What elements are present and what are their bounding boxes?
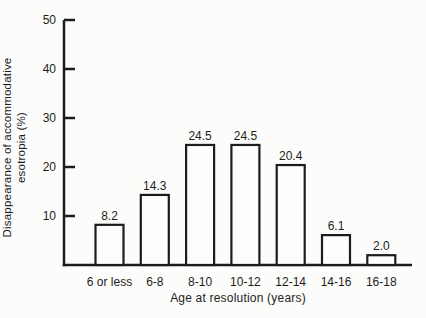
bar-value-label: 20.4 (279, 149, 303, 163)
y-tick-label: 30 (43, 111, 57, 125)
bar (96, 225, 124, 265)
x-category-label: 14-16 (321, 275, 352, 289)
bar-value-label: 8.2 (101, 209, 118, 223)
bar-chart-canvas: 10203040508.26 or less14.36-824.58-1024.… (0, 0, 426, 318)
bar-chart-figure: 10203040508.26 or less14.36-824.58-1024.… (0, 0, 426, 318)
bar (141, 195, 169, 265)
bar-value-label: 24.5 (234, 129, 258, 143)
bar-value-label: 6.1 (328, 219, 345, 233)
bar (367, 255, 395, 265)
bar (322, 235, 350, 265)
y-tick-label: 20 (43, 160, 57, 174)
y-axis-title-line1: Disappearance of accommodative (0, 38, 14, 258)
x-axis-title: Age at resolution (years) (88, 291, 388, 305)
y-tick-label: 10 (43, 209, 57, 223)
bar-value-label: 14.3 (143, 179, 167, 193)
y-tick-label: 40 (43, 62, 57, 76)
x-category-label: 16-18 (366, 275, 397, 289)
x-category-label: 6 or less (87, 275, 132, 289)
y-tick-label: 50 (43, 13, 57, 27)
x-category-label: 6-8 (146, 275, 164, 289)
x-category-label: 10-12 (230, 275, 261, 289)
bar-value-label: 2.0 (373, 239, 390, 253)
bar-value-label: 24.5 (188, 129, 212, 143)
x-category-label: 12-14 (275, 275, 306, 289)
bar (277, 165, 305, 265)
y-axis-title-line2: esotropia (%) (14, 38, 28, 258)
bar (186, 145, 214, 265)
y-axis-title: Disappearance of accommodative esotropia… (0, 38, 29, 258)
bar (231, 145, 259, 265)
x-category-label: 8-10 (188, 275, 212, 289)
